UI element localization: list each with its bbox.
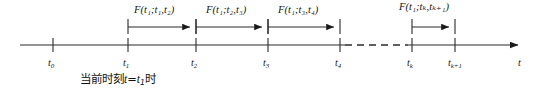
span-label-tk-tk1: F(t₁;tₖ,tₖ₊₁) <box>399 2 449 13</box>
tick-label-t4: t4 <box>335 58 341 68</box>
tick-label-tk-sub: k <box>410 62 413 69</box>
span-label-t1-t2-args: (t₁;t₁,t₂) <box>141 4 175 15</box>
span-arrow-t1-t2 <box>128 19 196 34</box>
diagram-caption: 当前时刻t=t1时 <box>80 74 156 86</box>
tick-label-t3-sub: 3 <box>266 62 269 69</box>
tick-label-tk: tk <box>407 58 413 68</box>
tick-label-tk1-sub: k+1 <box>451 62 462 69</box>
caption-var-right-sub: 1 <box>140 78 145 87</box>
tick-label-t0-sub: 0 <box>51 62 54 69</box>
caption-prefix: 当前时刻 <box>80 72 124 86</box>
tick-label-t2: t2 <box>191 58 197 68</box>
caption-equals: = <box>127 72 137 86</box>
span-arrow-t3-t4 <box>268 19 340 34</box>
tick-label-t1-sub: 1 <box>126 62 129 69</box>
timeline-diagram: F(t₁;t₁,t₂) F(t₁;t₂,t₃) F(t₁;t₃,t₄) F(t₁… <box>0 0 541 97</box>
caption-suffix: 时 <box>145 72 156 86</box>
span-label-t2-t3: F(t₁;t₂,t₃) <box>206 5 246 16</box>
time-axis-label: t <box>518 58 521 68</box>
tick-label-t1: t1 <box>123 58 129 68</box>
tick-label-t2-sub: 2 <box>194 62 197 69</box>
span-label-t1-t2: F(t₁;t₁,t₂) <box>134 5 174 16</box>
span-label-tk-tk1-args: (t₁;tₖ,tₖ₊₁) <box>406 1 450 12</box>
tick-label-tk1: tk+1 <box>448 58 462 68</box>
tick-label-t4-sub: 4 <box>338 62 341 69</box>
tick-label-t0: t0 <box>48 58 54 68</box>
span-arrow-tk-tk1 <box>412 19 455 34</box>
span-arrow-t2-t3 <box>196 19 268 34</box>
span-label-t3-t4: F(t₁;t₃,t₄) <box>278 5 318 16</box>
span-label-t2-t3-args: (t₁;t₂,t₃) <box>213 4 247 15</box>
tick-label-t3: t3 <box>263 58 269 68</box>
span-label-t3-t4-args: (t₁;t₃,t₄) <box>285 4 319 15</box>
